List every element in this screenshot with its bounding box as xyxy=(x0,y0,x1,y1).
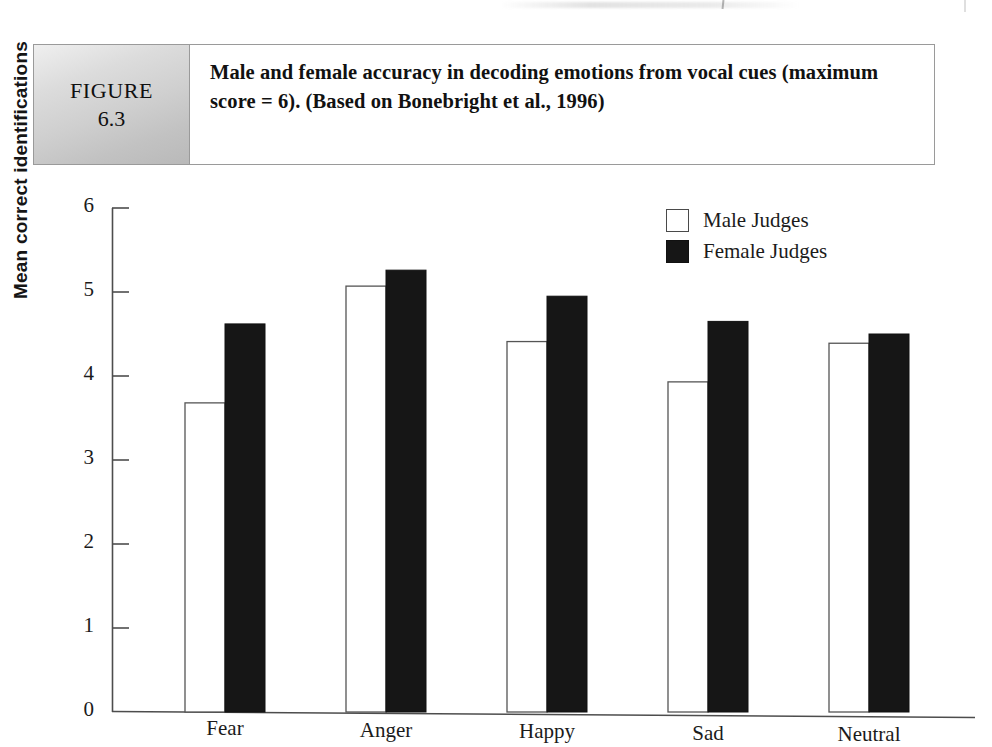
bar-sad-female xyxy=(708,321,748,712)
y-axis-title: Mean correct identifications xyxy=(10,5,32,335)
bar-sad-male xyxy=(668,382,708,712)
figure-caption-text: Male and female accuracy in decoding emo… xyxy=(190,45,934,164)
figure-number-tab: FIGURE 6.3 xyxy=(34,45,190,164)
x-tick-label-happy: Happy xyxy=(477,719,617,744)
figure-caption-block: FIGURE 6.3 Male and female accuracy in d… xyxy=(33,44,935,165)
legend-label-female: Female Judges xyxy=(703,239,827,264)
y-tick-label: 1 xyxy=(60,613,94,638)
x-tick-label-neutral: Neutral xyxy=(799,722,939,747)
bar-series-group xyxy=(185,270,909,712)
x-tick-label-anger: Anger xyxy=(316,718,456,743)
y-tick-label: 6 xyxy=(60,193,94,218)
y-tick-label: 2 xyxy=(60,529,94,554)
bar-neutral-male xyxy=(829,343,869,712)
figure-label: FIGURE xyxy=(70,78,153,104)
y-tick-label: 4 xyxy=(60,361,94,386)
bar-anger-female xyxy=(386,270,426,712)
bar-happy-male xyxy=(507,342,547,712)
legend-label-male: Male Judges xyxy=(703,208,809,233)
bar-happy-female xyxy=(547,296,587,712)
axis-lines xyxy=(112,208,975,718)
scan-artifact-top xyxy=(500,2,800,8)
legend-swatch-female-icon xyxy=(666,240,689,263)
bar-anger-male xyxy=(346,286,386,712)
bar-fear-female xyxy=(225,324,265,712)
y-tick-label: 5 xyxy=(60,277,94,302)
y-tick-label: 3 xyxy=(60,445,94,470)
bar-neutral-female xyxy=(869,334,909,712)
bar-fear-male xyxy=(185,403,225,712)
scan-artifact-right-edge xyxy=(964,0,966,12)
x-tick-label-sad: Sad xyxy=(638,721,778,746)
legend-item-male[interactable]: Male Judges xyxy=(666,205,827,236)
y-tick-label: 0 xyxy=(60,697,94,722)
chart-legend: Male Judges Female Judges xyxy=(666,205,827,267)
figure-number: 6.3 xyxy=(98,106,126,132)
x-tick-label-fear: Fear xyxy=(155,716,295,741)
legend-item-female[interactable]: Female Judges xyxy=(666,236,827,267)
legend-swatch-male-icon xyxy=(666,209,689,232)
y-axis-ticks xyxy=(112,208,129,628)
